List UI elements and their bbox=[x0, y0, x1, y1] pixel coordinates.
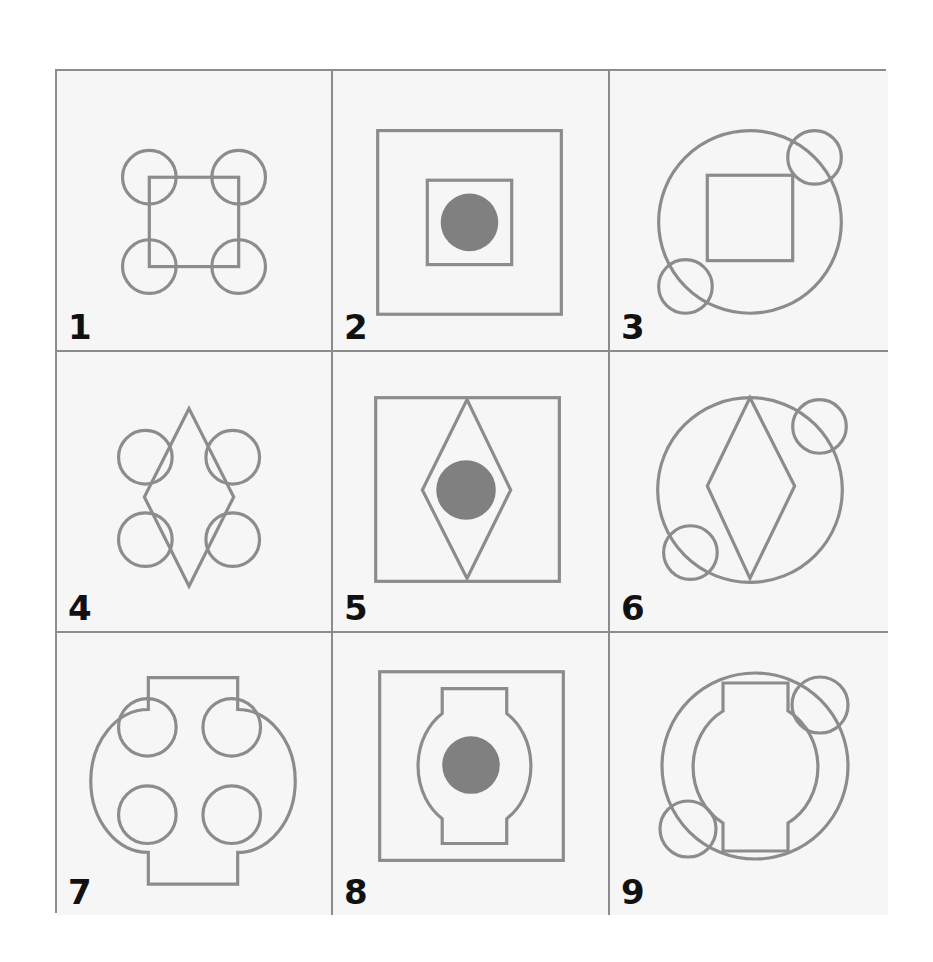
corner-circle-bottom-left bbox=[119, 786, 177, 844]
figure-5 bbox=[333, 352, 608, 631]
figure-8 bbox=[333, 633, 608, 915]
figure-3 bbox=[610, 71, 888, 350]
figure-1 bbox=[57, 71, 331, 350]
cell-label-3: 3 bbox=[621, 310, 645, 344]
cell-label-2: 2 bbox=[344, 310, 368, 344]
matrix-cell-8[interactable]: 8 bbox=[333, 633, 610, 915]
figure-6 bbox=[610, 352, 888, 631]
square-outline bbox=[149, 177, 238, 266]
matrix-grid: 1 2 3 bbox=[55, 69, 886, 913]
matrix-cell-2[interactable]: 2 bbox=[333, 71, 610, 352]
center-dot bbox=[441, 194, 499, 252]
outer-circle-outline bbox=[662, 673, 848, 859]
page-canvas: 1 2 3 bbox=[0, 0, 933, 962]
matrix-cell-9[interactable]: 9 bbox=[610, 633, 888, 915]
figure-4 bbox=[57, 352, 331, 631]
outer-circle-outline bbox=[659, 131, 842, 314]
barrel-outline bbox=[91, 678, 296, 884]
corner-circle-bottom-right bbox=[203, 786, 261, 844]
cell-label-5: 5 bbox=[344, 591, 368, 625]
matrix-cell-5[interactable]: 5 bbox=[333, 352, 610, 633]
cell-label-7: 7 bbox=[68, 875, 92, 909]
accent-circle-top-right bbox=[793, 400, 847, 454]
cell-label-9: 9 bbox=[621, 875, 645, 909]
cell-label-6: 6 bbox=[621, 591, 645, 625]
diamond-outline bbox=[707, 398, 794, 579]
accent-circle-bottom-left bbox=[664, 526, 718, 580]
matrix-cell-3[interactable]: 3 bbox=[610, 71, 888, 352]
center-dot bbox=[442, 736, 500, 794]
figure-7 bbox=[57, 633, 331, 915]
matrix-cell-7[interactable]: 7 bbox=[57, 633, 333, 915]
center-dot bbox=[436, 460, 496, 520]
barrel-outline bbox=[693, 683, 818, 851]
cell-label-1: 1 bbox=[68, 310, 92, 344]
cell-label-8: 8 bbox=[344, 875, 368, 909]
outer-circle-outline bbox=[658, 398, 843, 583]
figure-9 bbox=[610, 633, 888, 915]
corner-circle-top-right bbox=[203, 699, 261, 757]
matrix-cell-1[interactable]: 1 bbox=[57, 71, 333, 352]
accent-circle-top-right bbox=[792, 677, 848, 733]
cell-label-4: 4 bbox=[68, 591, 92, 625]
square-outline bbox=[707, 175, 792, 260]
figure-2 bbox=[333, 71, 608, 350]
matrix-cell-4[interactable]: 4 bbox=[57, 352, 333, 633]
matrix-cell-6[interactable]: 6 bbox=[610, 352, 888, 633]
